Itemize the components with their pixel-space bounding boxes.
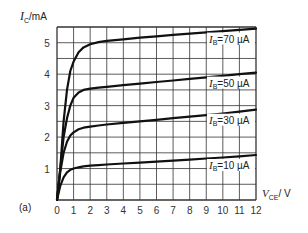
y-tick-label: 4 <box>44 69 50 80</box>
x-tick-label: 0 <box>54 205 60 216</box>
y-axis-label: IC/mA <box>19 9 47 24</box>
x-tick-label: 4 <box>121 205 127 216</box>
x-tick-label: 12 <box>250 205 262 216</box>
x-tick-label: 7 <box>170 205 176 216</box>
y-tick-label: 2 <box>44 132 50 143</box>
x-tick-label: 1 <box>71 205 77 216</box>
curve-labels: IB=70 µAIB=50 µAIB=30 µAIB=10 µA <box>207 33 255 172</box>
x-tick-labels: 0123456789101112 <box>54 205 262 216</box>
x-tick-label: 11 <box>234 205 245 216</box>
x-axis-label: VCE/ V <box>262 187 291 201</box>
x-tick-label: 2 <box>87 205 93 216</box>
x-tick-label: 5 <box>137 205 143 216</box>
x-tick-label: 6 <box>154 205 160 216</box>
x-tick-label: 10 <box>217 205 229 216</box>
x-tick-label: 9 <box>203 205 209 216</box>
y-tick-labels: 12345 <box>44 38 50 175</box>
y-tick-label: 5 <box>44 38 50 49</box>
y-tick-label: 3 <box>44 101 50 112</box>
transistor-output-characteristics-chart: 0123456789101112 12345 IB=70 µAIB=50 µAI… <box>0 0 308 233</box>
x-tick-label: 8 <box>187 205 193 216</box>
y-tick-label: 1 <box>44 164 50 175</box>
x-tick-label: 3 <box>104 205 110 216</box>
panel-label: (a) <box>19 202 31 213</box>
